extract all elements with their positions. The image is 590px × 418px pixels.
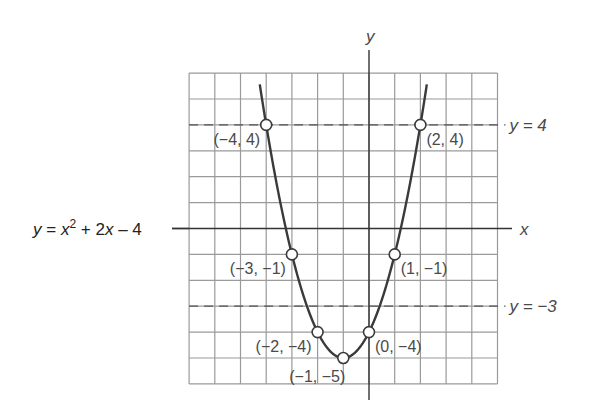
reference-line-label: y = 4	[509, 116, 547, 135]
data-point-label: (−4, 4)	[214, 131, 261, 148]
data-point	[338, 353, 349, 364]
data-point-label: (1, −1)	[401, 260, 448, 277]
data-point	[389, 249, 400, 260]
eq-x2: x	[104, 220, 114, 239]
eq-equals: =	[42, 220, 61, 239]
axes: x y	[172, 27, 529, 400]
data-point-label: (−1, −5)	[289, 368, 345, 385]
data-point-label: (−2, −4)	[256, 338, 312, 355]
data-point	[261, 119, 272, 130]
data-point-label: (0, −4)	[375, 338, 422, 355]
data-point	[415, 119, 426, 130]
eq-plus-2: + 2	[76, 220, 105, 239]
eq-minus-4: – 4	[113, 220, 141, 239]
eq-x: x	[60, 220, 70, 239]
equation-label: y = x2 + 2x – 4	[32, 217, 142, 239]
data-point-label: (2, 4)	[426, 131, 463, 148]
y-axis-label: y	[365, 27, 376, 46]
reference-line-label: y = −3	[509, 297, 558, 316]
data-point	[364, 327, 375, 338]
parabola-chart: y = 4y = −3 x y (−4, 4)(2, 4)(−3, −1)(1,…	[0, 0, 590, 418]
data-point	[286, 249, 297, 260]
point-labels: (−4, 4)(2, 4)(−3, −1)(1, −1)(−2, −4)(0, …	[214, 131, 464, 385]
x-axis-label: x	[519, 220, 529, 239]
data-point-label: (−3, −1)	[230, 260, 286, 277]
data-point	[312, 327, 323, 338]
